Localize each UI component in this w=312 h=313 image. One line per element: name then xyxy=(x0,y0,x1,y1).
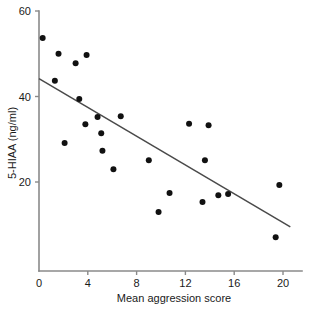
x-tick-label: 12 xyxy=(179,277,191,289)
x-tick-label: 4 xyxy=(85,277,91,289)
axes xyxy=(39,11,302,271)
data-point xyxy=(199,199,205,205)
data-point xyxy=(76,96,82,102)
data-point xyxy=(73,60,79,66)
data-point xyxy=(118,113,124,119)
data-point xyxy=(215,192,221,198)
data-point xyxy=(82,121,88,127)
data-point xyxy=(95,114,101,120)
data-point xyxy=(156,209,162,215)
data-point xyxy=(202,157,208,163)
data-point xyxy=(167,190,173,196)
plot-canvas: 204060 048121620 Mean aggression score 5… xyxy=(0,0,312,313)
x-tick-label: 8 xyxy=(134,277,140,289)
x-axis-title: Mean aggression score xyxy=(117,292,231,304)
data-point xyxy=(276,182,282,188)
data-point xyxy=(84,52,90,58)
y-axis-title: 5-HIAA (ng/ml) xyxy=(6,107,18,179)
data-point xyxy=(206,122,212,128)
x-tick-label: 20 xyxy=(277,277,289,289)
y-tick-label: 40 xyxy=(19,91,31,103)
x-tick-label: 16 xyxy=(228,277,240,289)
data-point xyxy=(99,148,105,154)
y-tick-label: 20 xyxy=(19,176,31,188)
x-axis-ticks: 048121620 xyxy=(36,271,289,289)
scatter-plot-figure: 204060 048121620 Mean aggression score 5… xyxy=(0,0,312,313)
data-point xyxy=(273,234,279,240)
data-points xyxy=(40,35,283,240)
fit-line-segment xyxy=(39,79,290,227)
data-point xyxy=(56,51,62,57)
x-tick-label: 0 xyxy=(36,277,42,289)
data-point xyxy=(146,157,152,163)
y-tick-label: 60 xyxy=(19,5,31,17)
data-point xyxy=(62,140,68,146)
data-point xyxy=(52,78,58,84)
y-axis-ticks: 204060 xyxy=(19,5,39,188)
data-point xyxy=(186,121,192,127)
data-point xyxy=(110,166,116,172)
regression-line xyxy=(39,79,290,227)
data-point xyxy=(98,130,104,136)
data-point xyxy=(225,191,231,197)
data-point xyxy=(40,35,46,41)
